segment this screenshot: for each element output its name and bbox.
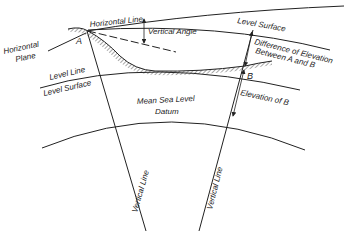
- level-surface-top-label: Level Surface: [237, 16, 287, 33]
- mean-sea-level-curve: [42, 122, 305, 150]
- difference-elevation-arrow: [245, 32, 252, 66]
- point-a-label: A: [75, 36, 82, 46]
- vertical-line-b-label: Vertical Line: [205, 165, 224, 210]
- elevation-of-b-label: Elevation of B: [240, 88, 291, 107]
- vertical-angle-label: Vertical Angle: [148, 27, 197, 36]
- surveying-elevation-diagram: A B Horizontal Line Horizontal Plane Ver…: [0, 0, 344, 233]
- mean-sea-level-label: Mean Sea Level: [137, 94, 195, 106]
- point-b-label: B: [247, 71, 253, 81]
- datum-label: Datum: [155, 107, 179, 116]
- vertical-line-a-label: Vertical Line: [130, 169, 151, 214]
